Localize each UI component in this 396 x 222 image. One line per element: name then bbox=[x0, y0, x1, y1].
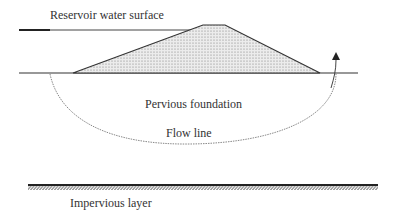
flow-line-label: Flow line bbox=[166, 127, 212, 139]
reservoir-label: Reservoir water surface bbox=[50, 9, 164, 21]
impervious-label: Impervious layer bbox=[70, 197, 152, 209]
impervious-layer bbox=[28, 185, 378, 190]
foundation-label: Pervious foundation bbox=[145, 98, 242, 110]
earth-dam bbox=[73, 25, 320, 73]
seepage-diagram bbox=[0, 0, 396, 222]
